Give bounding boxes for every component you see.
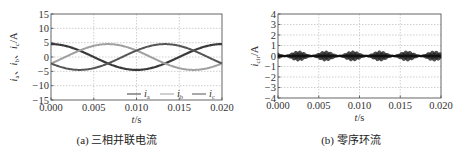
y-tick-label: 4 [271,9,277,20]
x-axis-label: t/s [132,114,142,125]
x-tick-label: 0.020 [429,100,453,111]
y-tick-label: 5 [44,37,49,48]
y-tick-label: −15 [33,95,49,106]
x-tick-label: 0.005 [82,102,106,113]
x-tick-label: 0.010 [348,100,372,111]
y-tick-label: 15 [39,9,50,20]
x-tick-label: 0.015 [388,100,412,111]
y-axis-label: icir/A [249,45,262,66]
chart-b-axes: 0.0000.0050.0100.0150.02043210−1−2−3−4t/… [249,9,453,124]
legend-label: ic [209,88,215,100]
x-tick-label: 0.015 [167,102,191,113]
caption-a: (a) 三相并联电流 [0,131,234,147]
y-tick-label: 3 [271,19,276,30]
y-tick-label: 1 [271,40,276,51]
chart-three-phase-current: 0.0000.0050.0100.0150.020151050−5−10−15t… [0,0,234,153]
legend-label: ib [177,88,183,100]
y-tick-label: 0 [271,51,276,62]
legend: iaibic [127,88,215,100]
y-tick-label: −3 [265,82,276,93]
legend-label: ia [144,88,150,100]
y-tick-label: 10 [39,23,50,34]
y-tick-label: −1 [265,61,276,72]
x-axis-label: t/s [355,112,365,123]
y-tick-label: −2 [265,72,276,83]
caption-b: (b) 零序环流 [234,131,468,147]
y-tick-label: −4 [265,93,277,104]
x-tick-label: 0.020 [210,102,234,113]
x-tick-label: 0.010 [125,102,149,113]
chart-zero-sequence-circulating-current: 0.0000.0050.0100.0150.02043210−1−2−3−4t/… [234,0,468,153]
y-tick-label: 0 [44,52,49,63]
y-tick-label: −5 [38,66,49,77]
x-tick-label: 0.005 [307,100,331,111]
y-tick-label: 2 [271,30,276,41]
chart-a-axes: 0.0000.0050.0100.0150.020151050−5−10−15t… [8,9,234,126]
y-axis-label: ia、ib、ic/A [8,32,21,81]
y-tick-label: −10 [33,80,49,91]
